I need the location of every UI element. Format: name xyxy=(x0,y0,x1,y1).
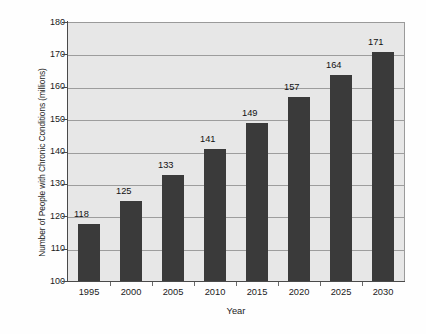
y-tick-mark xyxy=(62,184,68,185)
y-tick-mark xyxy=(62,152,68,153)
x-tick-mark xyxy=(152,282,153,286)
x-axis-title: Year xyxy=(68,306,404,316)
bar-chart-figure: Number of People with Chronic Conditions… xyxy=(0,0,426,334)
bar-value-label: 171 xyxy=(368,38,384,47)
gridline xyxy=(68,120,404,121)
y-tick-mark xyxy=(62,22,68,23)
bar-value-label: 164 xyxy=(326,61,342,70)
gridline xyxy=(68,217,404,218)
bar xyxy=(120,201,142,282)
bar-value-label: 149 xyxy=(242,109,258,118)
x-tick-label: 2000 xyxy=(110,288,152,297)
y-axis-tick-labels: 100110120130140150160170180 xyxy=(40,0,65,334)
x-tick-mark xyxy=(320,282,321,286)
bar xyxy=(372,52,394,282)
bar-value-label: 133 xyxy=(158,161,174,170)
x-tick-mark xyxy=(362,282,363,286)
x-tick-label: 2015 xyxy=(236,288,278,297)
gridline xyxy=(68,153,404,154)
y-tick-mark xyxy=(62,119,68,120)
gridline xyxy=(68,250,404,251)
y-tick-mark xyxy=(62,281,68,282)
x-tick-label: 2030 xyxy=(362,288,404,297)
x-tick-label: 2025 xyxy=(320,288,362,297)
x-tick-label: 2005 xyxy=(152,288,194,297)
y-tick-mark xyxy=(62,87,68,88)
y-tick-mark xyxy=(62,54,68,55)
x-tick-label: 1995 xyxy=(68,288,110,297)
x-tick-mark xyxy=(236,282,237,286)
bar-value-label: 157 xyxy=(284,83,300,92)
y-tick-mark xyxy=(62,249,68,250)
y-tick-mark xyxy=(62,216,68,217)
bar-value-label: 125 xyxy=(116,187,132,196)
bar-value-label: 118 xyxy=(74,210,89,219)
x-tick-mark xyxy=(194,282,195,286)
x-tick-mark xyxy=(110,282,111,286)
gridline xyxy=(68,88,404,89)
bar xyxy=(288,97,310,282)
bar xyxy=(204,149,226,282)
x-tick-label: 2020 xyxy=(278,288,320,297)
x-tick-mark xyxy=(278,282,279,286)
plot-area xyxy=(68,22,405,282)
bar-value-label: 141 xyxy=(200,135,216,144)
bar xyxy=(246,123,268,282)
bar xyxy=(330,75,352,282)
x-tick-label: 2010 xyxy=(194,288,236,297)
gridline xyxy=(68,55,404,56)
bar xyxy=(78,224,100,282)
bar xyxy=(162,175,184,282)
